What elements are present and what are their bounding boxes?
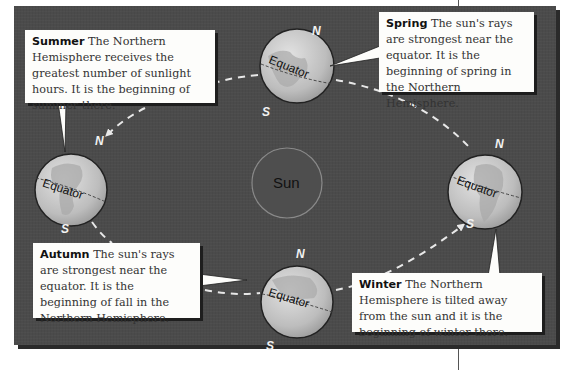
callout-summer-title: Summer [32,35,84,48]
north-pole-label-summer: N [95,134,104,148]
callout-spring: Spring The sun's rays are strongest near… [379,12,534,92]
callout-winter: Winter The Northern Hemisphere is tilted… [352,273,542,332]
sun-label: Sun [273,174,300,191]
south-pole-label-autumn: S [266,339,274,353]
south-pole-label-summer: S [61,222,69,236]
north-pole-label-autumn: N [296,247,305,261]
callout-autumn-title: Autumn [40,248,90,261]
callout-summer: Summer The Northern Hemisphere receives … [25,30,215,103]
callout-autumn: Autumn The sun's rays are strongest near… [33,243,200,318]
callout-spring-title: Spring [386,17,427,30]
callout-winter-title: Winter [359,278,402,291]
south-pole-label-spring: S [262,105,270,119]
north-pole-label-winter: N [495,137,504,151]
north-pole-label-spring: N [312,24,321,38]
south-pole-label-winter: S [466,217,474,231]
